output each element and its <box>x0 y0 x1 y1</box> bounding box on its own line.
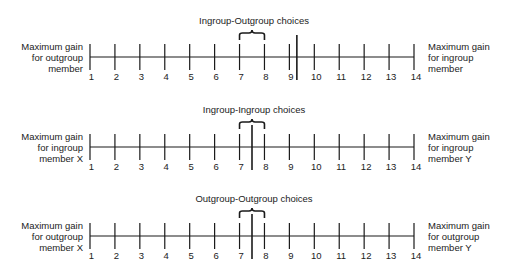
scale-outgroup-outgroup: Outgroup-Outgroup choices123456789101112… <box>89 193 421 261</box>
tick-label: 1 <box>89 161 94 172</box>
right-pole-label-line: member <box>428 63 505 74</box>
left-pole-label: Maximum gainfor outgroupmember <box>3 41 83 74</box>
tick-label: 4 <box>164 250 169 261</box>
tick-label: 9 <box>288 161 293 172</box>
tick-label: 11 <box>336 161 346 172</box>
right-pole-label-line: Maximum gain <box>428 41 505 52</box>
tick-label: 3 <box>139 250 144 261</box>
right-pole-label-line: Maximum gain <box>428 220 505 231</box>
right-pole-label-line: Maximum gain <box>428 131 505 142</box>
left-pole-label-line: Maximum gain <box>3 131 83 142</box>
tick-label: 6 <box>213 71 218 82</box>
tick-label: 5 <box>189 250 194 261</box>
tick-label: 13 <box>386 71 397 82</box>
tick-label: 10 <box>311 250 322 261</box>
choice-range-brace <box>240 30 265 40</box>
left-pole-label-line: Maximum gain <box>3 41 83 52</box>
scale-ingroup-outgroup: Ingroup-Outgroup choices1234567891011121… <box>89 15 421 82</box>
right-pole-label-line: for ingroup <box>428 142 505 153</box>
scale-title: Outgroup-Outgroup choices <box>195 193 312 204</box>
right-pole-label: Maximum gainfor ingroupmember <box>428 41 505 74</box>
tick-label: 6 <box>213 161 218 172</box>
tick-label: 12 <box>361 250 372 261</box>
right-pole-label-line: for ingroup <box>428 52 505 63</box>
tick-label: 2 <box>114 71 119 82</box>
tick-label: 3 <box>139 71 144 82</box>
right-pole-label: Maximum gainfor ingroupmember Y <box>428 131 505 164</box>
tick-label: 3 <box>139 161 144 172</box>
tick-label: 7 <box>238 161 243 172</box>
left-pole-label-line: member X <box>3 242 83 253</box>
tick-label: 11 <box>336 250 346 261</box>
tick-label: 8 <box>263 250 268 261</box>
left-pole-label-line: member X <box>3 153 83 164</box>
tick-label: 14 <box>411 161 422 172</box>
tick-label: 12 <box>361 71 372 82</box>
tick-label: 7 <box>238 71 243 82</box>
tick-label: 9 <box>288 250 293 261</box>
scale-title: Ingroup-Ingroup choices <box>203 104 306 115</box>
tick-label: 9 <box>288 71 293 82</box>
tick-label: 4 <box>164 71 169 82</box>
left-pole-label-line: for ingroup <box>3 142 83 153</box>
left-pole-label-line: for outgroup <box>3 231 83 242</box>
right-pole-label-line: member Y <box>428 153 505 164</box>
tick-label: 14 <box>411 250 422 261</box>
tick-label: 2 <box>114 250 119 261</box>
tick-label: 10 <box>311 161 322 172</box>
left-pole-label-line: Maximum gain <box>3 220 83 231</box>
tick-label: 11 <box>336 71 346 82</box>
tick-label: 12 <box>361 161 372 172</box>
right-pole-label-line: member Y <box>428 242 505 253</box>
tick-label: 1 <box>89 71 94 82</box>
tick-label: 1 <box>89 250 94 261</box>
tick-label: 2 <box>114 161 119 172</box>
tick-label: 5 <box>189 71 194 82</box>
right-pole-label-line: for outgroup <box>428 231 505 242</box>
tick-label: 8 <box>263 161 268 172</box>
left-pole-label: Maximum gainfor ingroupmember X <box>3 131 83 164</box>
scale-title: Ingroup-Outgroup choices <box>199 15 309 26</box>
tick-label: 10 <box>311 71 322 82</box>
scale-ingroup-ingroup: Ingroup-Ingroup choices12345678910111213… <box>89 104 421 172</box>
right-pole-label: Maximum gainfor outgroupmember Y <box>428 220 505 253</box>
left-pole-label: Maximum gainfor outgroupmember X <box>3 220 83 253</box>
tick-label: 5 <box>189 161 194 172</box>
tick-label: 7 <box>238 250 243 261</box>
left-pole-label-line: for outgroup <box>3 52 83 63</box>
tick-label: 13 <box>386 161 397 172</box>
tick-label: 8 <box>263 71 268 82</box>
left-pole-label-line: member <box>3 63 83 74</box>
tick-label: 4 <box>164 161 169 172</box>
tick-label: 14 <box>411 71 422 82</box>
tick-label: 13 <box>386 250 397 261</box>
tick-label: 6 <box>213 250 218 261</box>
